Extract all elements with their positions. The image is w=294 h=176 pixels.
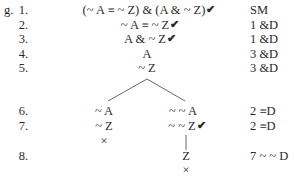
check-mark-icon: ✔ — [167, 31, 176, 45]
formula-text: A & ~ Z — [124, 32, 166, 46]
left-branch-formula-6: ~ A — [95, 104, 113, 118]
justification-line-2: 1 &D — [250, 18, 278, 32]
justification-line-1: SM — [250, 3, 268, 17]
branch-line-right — [147, 79, 185, 101]
right-branch-formula-8: Z — [182, 149, 190, 163]
right-branch-formula-7: ~ ~ Z✔ — [168, 119, 205, 133]
line-number-4: 4. — [4, 47, 28, 61]
justification-line-3: 1 &D — [250, 32, 278, 46]
justification-line-6: 2 ≡D — [250, 104, 275, 118]
line-number-8: 8. — [4, 149, 28, 163]
formula-line-5: ~ Z — [138, 61, 156, 75]
check-mark-icon: ✔ — [197, 118, 206, 132]
justification-line-8: 7 ~ ~ D — [250, 149, 288, 163]
left-branch-close-icon: × — [100, 134, 107, 148]
line-number-5: 5. — [4, 61, 28, 75]
check-mark-icon: ✔ — [170, 17, 179, 31]
line-number-1: 1. — [4, 3, 28, 17]
formula-text: (~ A ≡ ~ Z) & (A & ~ Z) — [83, 3, 206, 17]
line-number-7: 7. — [4, 119, 28, 133]
line-number-3: 3. — [4, 32, 28, 46]
line-number-6: 6. — [4, 104, 28, 118]
branch-line-left — [108, 79, 147, 101]
line-number-2: 2. — [4, 18, 28, 32]
formula-text: ~ ~ Z — [168, 119, 195, 133]
formula-line-2: ~ A ≡ ~ Z✔ — [121, 18, 179, 32]
formula-text: ~ A ≡ ~ Z — [121, 18, 169, 32]
left-branch-formula-7: ~ Z — [95, 119, 113, 133]
formula-line-3: A & ~ Z✔ — [124, 32, 176, 46]
justification-line-4: 3 &D — [250, 47, 278, 61]
justification-line-5: 3 &D — [250, 61, 278, 75]
justification-line-7: 2 ≡D — [250, 119, 275, 133]
right-branch-close-icon: × — [182, 163, 189, 176]
right-branch-formula-6: ~ ~ A — [169, 104, 197, 118]
check-mark-icon: ✔ — [206, 2, 215, 16]
formula-line-1: (~ A ≡ ~ Z) & (A & ~ Z)✔ — [83, 3, 216, 17]
formula-line-4: A — [142, 47, 151, 61]
